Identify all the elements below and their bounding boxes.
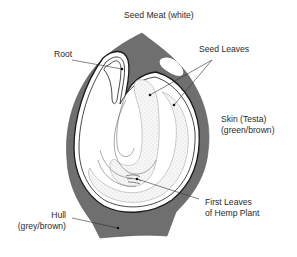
label-first-leaves-line1: First Leaves <box>205 197 259 208</box>
label-skin-line2: (green/brown) <box>221 125 275 136</box>
label-skin-line1: Skin (Testa) <box>221 114 275 125</box>
label-first-leaves: First Leaves of Hemp Plant <box>205 197 259 219</box>
label-first-leaves-line2: of Hemp Plant <box>205 208 259 219</box>
label-root: Root <box>54 49 72 60</box>
label-seed-meat: Seed Meat (white) <box>124 10 194 21</box>
label-hull: Hull (grey/brown) <box>16 210 66 232</box>
label-seed-leaves: Seed Leaves <box>199 44 249 55</box>
label-hull-line2: (grey/brown) <box>16 221 66 232</box>
label-hull-line1: Hull <box>16 210 66 221</box>
label-skin: Skin (Testa) (green/brown) <box>221 114 275 136</box>
